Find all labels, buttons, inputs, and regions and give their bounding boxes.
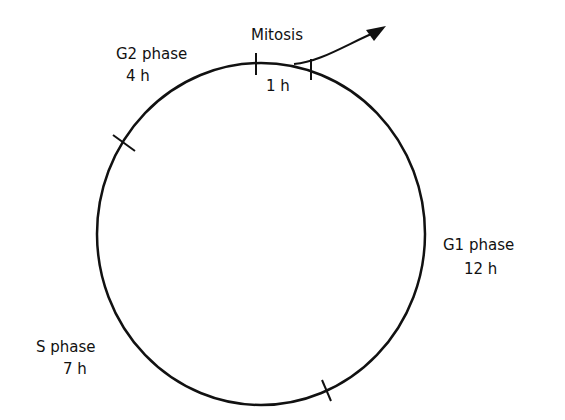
label-g2-time: 4 h — [126, 67, 150, 85]
label-g1-time: 12 h — [464, 260, 497, 278]
exit-arrow — [294, 31, 378, 64]
label-mitosis-time: 1 h — [266, 77, 290, 95]
label-g1: G1 phase — [443, 236, 514, 254]
tick-s-g2 — [113, 135, 135, 151]
label-s-time: 7 h — [63, 360, 87, 378]
arrow-head-icon — [366, 26, 386, 41]
cell-cycle-diagram: Mitosis 1 h G2 phase 4 h G1 phase 12 h S… — [0, 0, 565, 420]
label-g2: G2 phase — [116, 45, 187, 63]
label-mitosis: Mitosis — [251, 26, 303, 44]
cycle-circle — [97, 63, 425, 405]
label-s: S phase — [36, 338, 96, 356]
